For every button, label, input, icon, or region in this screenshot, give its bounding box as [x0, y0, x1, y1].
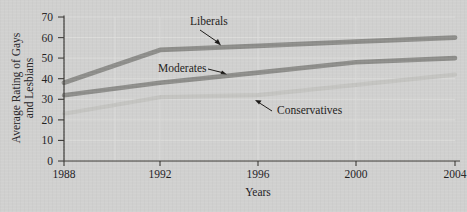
y-tick-70: 70: [42, 11, 54, 23]
x-tick-2004: 2004: [444, 168, 467, 180]
x-tick-2000: 2000: [345, 168, 368, 180]
moderates-label: Moderates: [158, 62, 207, 74]
y-tick-10: 10: [42, 134, 54, 146]
y-tick-30: 30: [42, 93, 54, 105]
chart-background: [0, 0, 467, 212]
x-tick-1992: 1992: [149, 168, 172, 180]
liberals-label: Liberals: [190, 15, 228, 27]
y-tick-40: 40: [42, 73, 54, 85]
conservatives-label: Conservatives: [277, 104, 343, 116]
y-axis-title-line1: Average Rating of Gays: [10, 32, 23, 143]
y-tick-20: 20: [42, 114, 54, 126]
y-tick-60: 60: [42, 32, 54, 44]
x-tick-1988: 1988: [53, 168, 76, 180]
y-tick-50: 50: [42, 52, 54, 64]
line-chart: 70 60 50 40 30 20 10 0 1988 1992 1996 20…: [0, 0, 467, 212]
y-tick-0: 0: [47, 155, 53, 167]
chart-figure: 70 60 50 40 30 20 10 0 1988 1992 1996 20…: [0, 0, 467, 212]
y-axis-title-line2: and Lesbians: [23, 57, 35, 118]
x-tick-1996: 1996: [247, 168, 270, 180]
x-axis-title: Years: [245, 186, 271, 198]
